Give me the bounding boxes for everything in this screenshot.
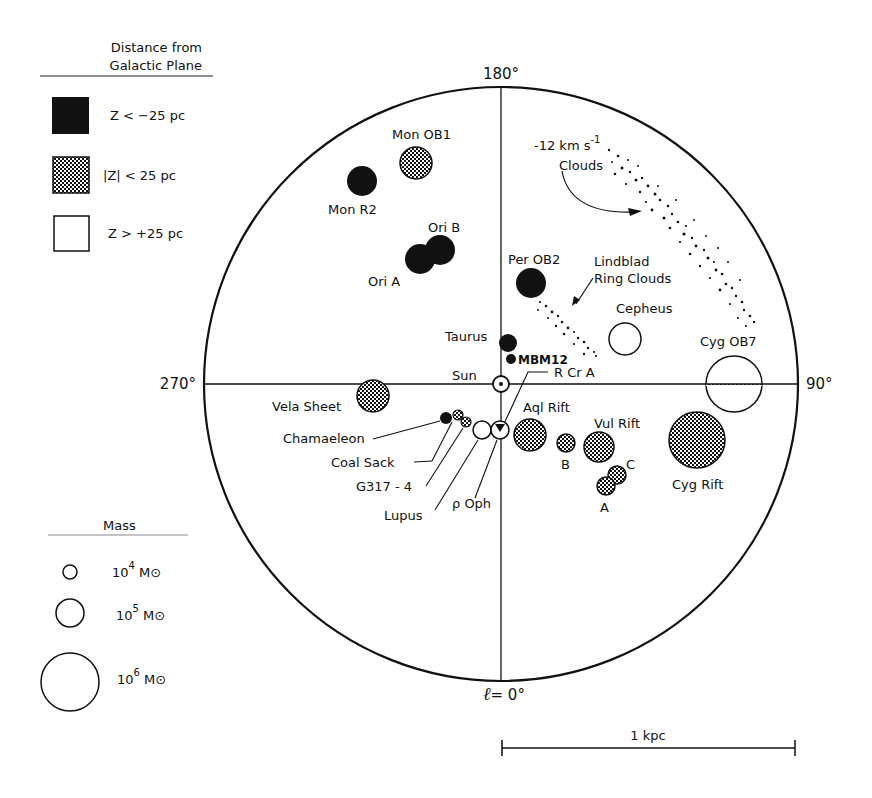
arrow-icon <box>572 296 580 306</box>
galactic-cloud-map: Distance from Galactic Plane Z < −25 pc … <box>0 0 872 798</box>
axis-label-270: 270° <box>160 375 196 393</box>
legend-mass-title: Mass <box>103 518 136 533</box>
legend-item-above: Z > +25 pc <box>108 226 183 241</box>
svg-text:B: B <box>561 457 570 472</box>
mass-1e5-label: 105M⊙ <box>116 603 165 623</box>
svg-text:Lindblad: Lindblad <box>594 254 649 269</box>
svg-text:Mon R2: Mon R2 <box>328 202 377 217</box>
axis-label-180: 180° <box>483 65 519 83</box>
mass-1e4-label: 104M⊙ <box>112 560 161 580</box>
cloud-taurus: Taurus <box>444 329 517 352</box>
cloud-a: A <box>597 477 615 515</box>
svg-text:Mon OB1: Mon OB1 <box>392 127 451 142</box>
lindblad-ring-band <box>537 301 597 357</box>
svg-text:Cepheus: Cepheus <box>616 301 673 316</box>
svg-text:Vul Rift: Vul Rift <box>594 416 640 431</box>
cloud-r-cr-a: R Cr A <box>502 365 595 428</box>
svg-text:Cyg OB7: Cyg OB7 <box>700 334 757 349</box>
mass-1e4-circle-icon <box>63 565 77 579</box>
svg-text:Sun: Sun <box>452 368 477 383</box>
axis-label-90: 90° <box>806 375 833 393</box>
svg-text:G317 - 4: G317 - 4 <box>356 479 412 494</box>
svg-text:Cyg Rift: Cyg Rift <box>672 477 723 492</box>
svg-text:Ring Clouds: Ring Clouds <box>594 271 671 286</box>
svg-text:Per OB2: Per OB2 <box>508 252 560 267</box>
mass-legend: Mass 104M⊙ 105M⊙ 106M⊙ <box>41 518 188 711</box>
scale-bar-label: 1 kpc <box>630 728 665 743</box>
mass-1e6-circle-icon <box>41 653 99 711</box>
cloud-vela-sheet: Vela Sheet <box>272 380 389 414</box>
svg-text:Coal Sack: Coal Sack <box>331 455 395 470</box>
svg-text:Aql Rift: Aql Rift <box>523 400 570 415</box>
cloud-per-ob2: Per OB2 <box>508 252 560 298</box>
mass-1e5-circle-icon <box>56 599 84 627</box>
cloud-vul-rift: Vul Rift <box>584 416 640 462</box>
cloud-b: B <box>557 434 575 472</box>
open-swatch-icon <box>54 216 89 251</box>
axis-label-0: ℓ= 0° <box>483 683 525 704</box>
annotation-velocity-clouds: -12 km s-1 Clouds <box>534 134 642 216</box>
svg-text:C: C <box>626 457 635 472</box>
svg-text:A: A <box>600 500 609 515</box>
svg-text:Taurus: Taurus <box>444 329 488 344</box>
distance-legend: Distance from Galactic Plane Z < −25 pc … <box>40 40 213 251</box>
svg-text:Vela Sheet: Vela Sheet <box>272 399 341 414</box>
solid-swatch-icon <box>52 97 89 134</box>
svg-text:-12 km s-1: -12 km s-1 <box>534 134 600 153</box>
cloud-cyg-rift: Cyg Rift <box>669 412 725 492</box>
cloud-mon-ob1: Mon OB1 <box>392 127 451 179</box>
arrow-icon <box>562 171 636 212</box>
legend-item-within: |Z| < 25 pc <box>103 168 176 183</box>
svg-text:Ori A: Ori A <box>368 274 400 289</box>
annotation-lindblad-ring: Lindblad Ring Clouds <box>572 254 671 306</box>
cloud-cyg-ob7: Cyg OB7 <box>700 334 762 412</box>
legend-distance-title-2: Galactic Plane <box>110 58 202 73</box>
svg-text:Ori B: Ori B <box>428 220 460 235</box>
svg-text:R Cr A: R Cr A <box>554 365 595 380</box>
svg-text:Lupus: Lupus <box>384 508 423 523</box>
cloud-cepheus: Cepheus <box>609 301 673 355</box>
cloud-mon-r2: Mon R2 <box>328 166 377 217</box>
svg-text:ρ Oph: ρ Oph <box>452 496 491 511</box>
cloud-chamaeleon: Chamaeleon <box>283 412 452 446</box>
cloud-ori-a: Ori A <box>368 244 435 289</box>
legend-item-below: Z < −25 pc <box>110 108 185 123</box>
svg-text:Clouds: Clouds <box>559 158 603 173</box>
scale-bar: 1 kpc <box>502 728 795 756</box>
svg-text:Chamaeleon: Chamaeleon <box>283 431 365 446</box>
legend-distance-title-1: Distance from <box>111 40 202 55</box>
mass-1e6-label: 106M⊙ <box>117 667 166 687</box>
hatched-swatch-icon <box>53 157 89 193</box>
